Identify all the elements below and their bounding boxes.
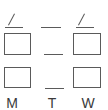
day-label-tuesday: T (42, 96, 62, 110)
middle-line-tuesday (44, 54, 63, 55)
day-label-monday: M (2, 96, 22, 110)
upper-box-wednesday[interactable] (73, 33, 101, 55)
lower-line-tuesday (45, 88, 64, 89)
lower-box-monday[interactable] (4, 67, 31, 88)
weekday-diagram: M T W (0, 0, 108, 110)
slash-mark-monday (8, 14, 15, 26)
lower-box-wednesday[interactable] (73, 67, 101, 88)
slash-mark-wednesday (78, 14, 85, 26)
top-line-tuesday (41, 27, 61, 28)
top-line-wednesday (76, 27, 94, 28)
upper-box-monday[interactable] (4, 33, 31, 55)
day-label-wednesday: W (78, 96, 98, 110)
top-line-monday (5, 27, 23, 28)
